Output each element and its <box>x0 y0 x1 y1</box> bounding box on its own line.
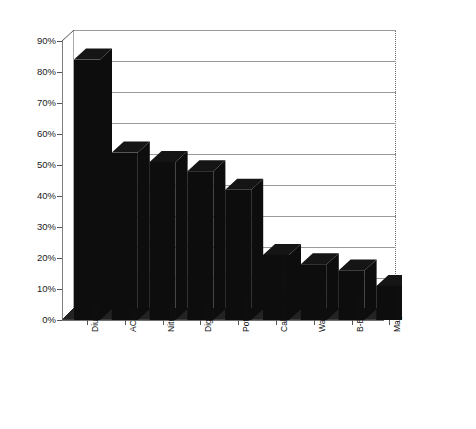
x-axis-label: Digoxin <box>204 304 213 332</box>
x-tick-mark <box>314 320 315 325</box>
x-axis-label: Warfarin <box>318 300 327 332</box>
x-axis-labels: DiureticsACEIsNitratesDigoxinPotassiumCa… <box>0 0 476 429</box>
x-axis-label: Nitrates <box>167 303 176 332</box>
x-tick-mark <box>163 320 164 325</box>
x-tick-mark <box>352 320 353 325</box>
x-tick-mark <box>238 320 239 325</box>
x-axis-label: Magnesium <box>393 288 402 332</box>
bar-chart: Percent of Patients 0%10%20%30%40%50%60%… <box>0 0 476 429</box>
x-tick-mark <box>389 320 390 325</box>
x-axis-label: Potassium <box>242 292 251 332</box>
x-tick-mark <box>200 320 201 325</box>
x-axis-label: B-Blockers <box>356 291 365 332</box>
x-axis-label: Diuretics <box>91 299 100 332</box>
x-tick-mark <box>276 320 277 325</box>
x-tick-mark <box>87 320 88 325</box>
x-tick-mark <box>125 320 126 325</box>
x-axis-label: Calcium Antagonists <box>280 255 289 332</box>
x-axis-label: ACEIs <box>129 308 138 332</box>
